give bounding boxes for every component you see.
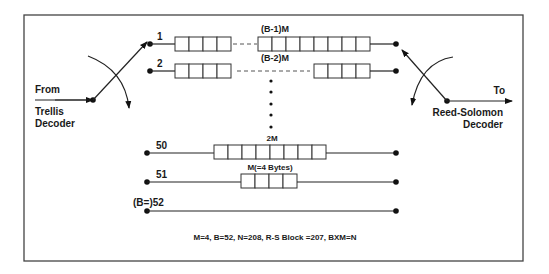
input-label-decoder: Decoder <box>35 118 75 129</box>
branch-index: 50 <box>156 140 168 151</box>
parameters-caption: M=4, B=52, N=208, R-S Block =207, BXM=N <box>194 233 357 242</box>
commutator-switch-icon <box>93 42 147 100</box>
interleaver-diagram: From Trellis Decoder To Reed-Solomon Dec… <box>0 0 549 274</box>
output-commutator: To Reed-Solomon Decoder <box>402 50 512 130</box>
input-commutator: From Trellis Decoder <box>35 42 147 129</box>
output-label-to: To <box>494 85 505 96</box>
delay-label: (B-2)M <box>261 53 289 63</box>
delay-label: (B-1)M <box>261 24 289 34</box>
branch-2: 2 (B-2)M <box>147 53 399 78</box>
output-label-rs: Reed-Solomon <box>432 107 503 118</box>
branch-index: 51 <box>156 169 168 180</box>
commutator-switch-icon <box>402 50 447 101</box>
branch-index: 1 <box>157 31 163 42</box>
branch-51: M(=4 Bytes) 51 <box>144 163 399 188</box>
branch-52: (B=)52 <box>133 197 399 214</box>
output-label-decoder: Decoder <box>463 119 503 130</box>
ellipsis-dots <box>269 79 272 128</box>
branch-1: 1 (B-1)M <box>147 24 399 51</box>
branch-50: 2M 50 <box>144 134 399 159</box>
delay-label: M(=4 Bytes) <box>247 163 292 172</box>
branch-index: 2 <box>157 58 163 69</box>
branch-index: (B=)52 <box>133 197 164 208</box>
input-label-trellis: Trellis <box>35 106 64 117</box>
rotation-arrow-icon <box>412 57 453 105</box>
input-label-from: From <box>35 84 60 95</box>
delay-label: 2M <box>266 134 277 143</box>
